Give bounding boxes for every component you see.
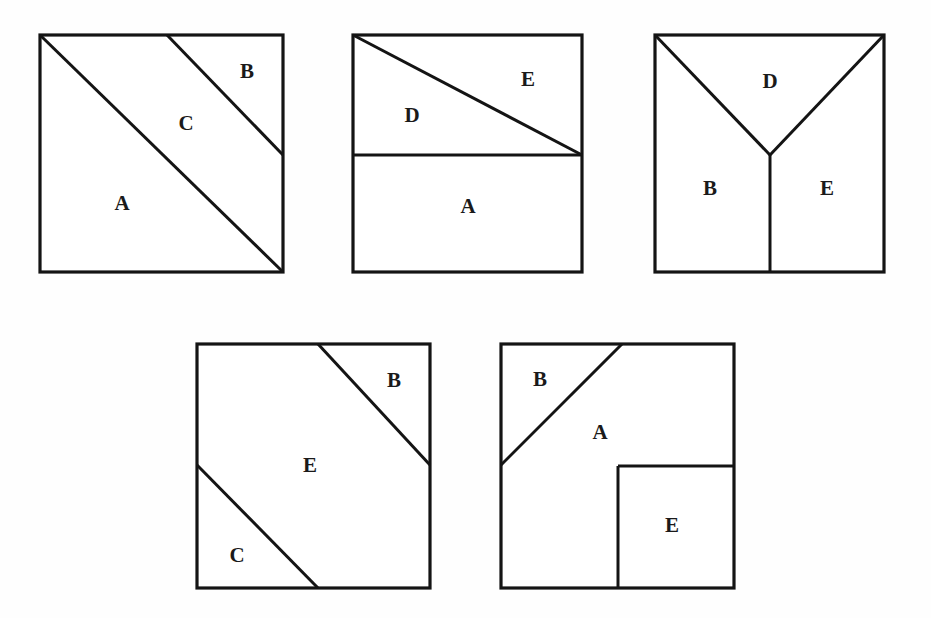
geometry-figure-panel: BCAEDADBEBECBAE xyxy=(0,0,931,618)
square-5-region-label-a: A xyxy=(592,420,608,444)
square-5-region-label-b: B xyxy=(533,367,547,391)
square-4-region-label-e: E xyxy=(303,453,317,477)
square-2-region-label-d: D xyxy=(404,103,419,127)
square-3-region-label-b: B xyxy=(703,176,717,200)
square-d-b-e-y-junction: DBE xyxy=(655,35,884,272)
square-4-region-label-c: C xyxy=(229,543,244,567)
square-1-region-label-c: C xyxy=(178,111,193,135)
square-3-region-label-e: E xyxy=(820,176,834,200)
square-2-region-label-a: A xyxy=(460,194,476,218)
square-2-region-label-e: E xyxy=(521,67,535,91)
square-a-c-b-double-diagonal: BCA xyxy=(40,35,283,272)
square-4-region-label-b: B xyxy=(387,368,401,392)
square-5-region-label-e: E xyxy=(665,513,679,537)
square-b-e-c-two-parallel-corner-cuts: BEC xyxy=(197,344,430,588)
square-3-region-label-d: D xyxy=(762,69,777,93)
square-1-region-label-b: B xyxy=(240,59,254,83)
square-d-e-a-horizontal-and-diagonal: EDA xyxy=(353,35,582,272)
square-1-region-label-a: A xyxy=(114,191,130,215)
figure-canvas: BCAEDADBEBECBAE xyxy=(0,0,931,618)
square-b-a-e-corner-cut-and-inner-square: BAE xyxy=(501,344,734,588)
